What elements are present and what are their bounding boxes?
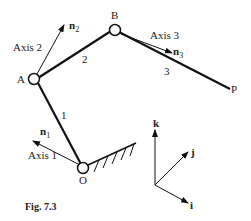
joint-O [78,163,89,174]
label-i: i [190,200,193,211]
label-B: B [111,10,118,21]
joint-A [29,74,40,85]
label-A: A [17,74,25,85]
joint-B [110,25,121,36]
label-link-1: 1 [61,110,67,121]
label-j: j [191,147,195,158]
label-axis-3: Axis 3 [150,30,179,41]
label-link-3: 3 [164,66,170,77]
label-P: P [231,84,237,95]
label-link-2: 2 [82,54,88,65]
label-n3: n3 [173,46,183,60]
label-axis-1: Axis 1 [28,150,57,161]
linkage-diagram [0,0,251,221]
label-axis-2: Axis 2 [13,42,42,53]
reference-frame [155,130,188,203]
label-n2: n2 [69,20,79,34]
label-k: k [153,118,159,129]
ground-support [88,143,136,172]
figure-caption: Fig. 7.3 [25,202,56,212]
label-n1: n1 [40,126,50,140]
link-2 [38,31,111,78]
label-O: O [79,175,87,186]
